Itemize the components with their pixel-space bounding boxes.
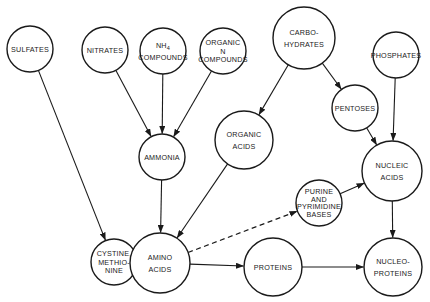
node-label: AMINO — [148, 253, 173, 262]
node-label: NUCLEO- — [376, 257, 410, 266]
node-organic-acids: ORGANICACIDS — [215, 111, 273, 169]
node-circle — [140, 28, 186, 74]
node-label: NITRATES — [87, 46, 124, 55]
node-proteins: PROTEINS — [244, 238, 302, 296]
node-label: PROTEINS — [374, 269, 412, 278]
node-ammonia: AMMONIA — [139, 134, 185, 180]
nodes-layer: SULFATESNITRATESNH4COMPOUNDSORGANICNCOMP… — [7, 7, 422, 296]
edge-carbohydrates-to-pentoses — [322, 63, 341, 89]
node-label: PROTEINS — [254, 263, 292, 272]
node-nitrates: NITRATES — [82, 27, 128, 73]
node-carbohydrates: CARBO-HYDRATES — [273, 7, 335, 69]
node-phosphates: PHOSPHATES — [371, 32, 422, 78]
edge-phosphates-to-nucleic-acids — [393, 78, 395, 141]
node-nucleoproteins: NUCLEO-PROTEINS — [364, 238, 422, 296]
node-label: PENTOSES — [335, 104, 376, 113]
node-pentoses: PENTOSES — [332, 85, 378, 131]
edge-ammonia-to-amino-acids — [161, 180, 162, 233]
node-label: NUCLEIC — [376, 161, 409, 170]
node-label: HYDRATES — [284, 40, 324, 49]
node-nucleic-acids: NUCLEICACIDS — [362, 141, 422, 201]
node-label: ORGANIC — [227, 130, 262, 139]
node-label: ACIDS — [233, 142, 256, 151]
metabolic-pathway-diagram: SULFATESNITRATESNH4COMPOUNDSORGANICNCOMP… — [0, 0, 430, 302]
edge-nh4-to-ammonia — [162, 74, 163, 134]
edge-sulfates-to-cystine — [38, 70, 105, 240]
node-label: ACIDS — [381, 173, 404, 182]
edge-amino-acids-to-proteins — [190, 264, 244, 266]
node-organic-n: ORGANICNCOMPOUNDS — [198, 28, 247, 74]
node-label: COMPOUNDS — [138, 53, 187, 62]
edge-nitrates-to-ammonia — [116, 70, 151, 136]
edge-organic-acids-to-amino-acids — [177, 164, 227, 238]
node-amino-acids: AMINOACIDS — [130, 233, 190, 293]
edge-pentoses-to-nucleic-acids — [367, 128, 377, 145]
node-label: CARBO- — [289, 28, 319, 37]
node-label: AMMONIA — [144, 153, 180, 162]
node-circle — [273, 7, 335, 69]
node-purine: PURINEANDPYRIMIDINEBASES — [296, 180, 342, 226]
node-label: ACIDS — [149, 265, 172, 274]
edge-carbohydrates-to-organic-acids — [259, 65, 288, 115]
node-label: SULFATES — [11, 45, 49, 54]
node-circle — [215, 111, 273, 169]
edge-purine-to-nucleic-acids — [340, 183, 364, 194]
node-nh4: NH4COMPOUNDS — [138, 28, 187, 74]
node-label: PHOSPHATES — [371, 51, 422, 60]
node-label: BASES — [307, 210, 332, 219]
node-circle — [364, 238, 422, 296]
node-label: COMPOUNDS — [198, 55, 247, 64]
node-sulfates: SULFATES — [7, 26, 53, 72]
node-circle — [130, 233, 190, 293]
node-circle — [362, 141, 422, 201]
node-label: NINE — [105, 266, 123, 275]
edge-organic-n-to-ammonia — [174, 71, 212, 137]
